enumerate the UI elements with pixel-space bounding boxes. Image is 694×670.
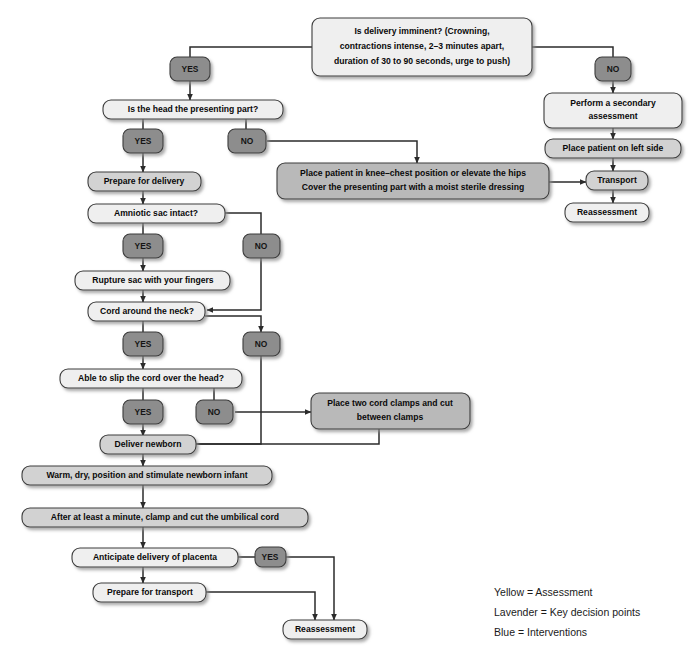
node-secondary-assessment[interactable]: Perform a secondary assessment xyxy=(544,93,682,128)
pill-yes-placenta[interactable]: YES xyxy=(255,547,286,567)
node-warm-dry[interactable]: Warm, dry, position and stimulate newbor… xyxy=(22,466,272,485)
pill-no-cord[interactable]: NO xyxy=(243,332,280,356)
node-knee-chest-line1: Place patient in knee–chest position or … xyxy=(300,168,526,178)
pill-no-head[interactable]: NO xyxy=(228,129,266,153)
flowchart-canvas: Is delivery imminent? (Crowning, contrac… xyxy=(0,0,694,670)
node-reassessment-bottom-label: Reassessment xyxy=(295,624,355,634)
pill-no-imminent-label: NO xyxy=(607,64,620,74)
pill-yes-cord[interactable]: YES xyxy=(123,332,163,356)
node-head-presenting[interactable]: Is the head the presenting part? xyxy=(103,100,283,119)
pill-yes-placenta-label: YES xyxy=(262,552,279,562)
pill-yes-imminent[interactable]: YES xyxy=(170,57,210,81)
node-anticipate-placenta-label: Anticipate delivery of placenta xyxy=(93,552,217,562)
node-reassessment-right[interactable]: Reassessment xyxy=(565,203,649,222)
node-cord-clamps-line1: Place two cord clamps and cut xyxy=(327,398,453,408)
pill-no-imminent[interactable]: NO xyxy=(595,57,631,81)
node-cord-clamps[interactable]: Place two cord clamps and cut between cl… xyxy=(311,393,470,429)
node-secondary-assessment-line2: assessment xyxy=(588,111,637,121)
node-prepare-transport-label: Prepare for transport xyxy=(107,587,193,597)
pill-yes-slip-label: YES xyxy=(135,407,152,417)
node-warm-dry-label: Warm, dry, position and stimulate newbor… xyxy=(46,470,247,480)
node-anticipate-placenta[interactable]: Anticipate delivery of placenta xyxy=(72,548,238,567)
node-knee-chest[interactable]: Place patient in knee–chest position or … xyxy=(277,163,549,199)
node-prepare-delivery[interactable]: Prepare for delivery xyxy=(88,172,201,191)
pill-no-cord-label: NO xyxy=(255,339,268,349)
node-rupture-sac-label: Rupture sac with your fingers xyxy=(92,275,214,285)
node-transport[interactable]: Transport xyxy=(586,171,648,190)
node-prepare-delivery-label: Prepare for delivery xyxy=(104,176,185,186)
node-rupture-sac[interactable]: Rupture sac with your fingers xyxy=(75,271,230,290)
pill-yes-head-label: YES xyxy=(135,136,152,146)
pill-yes-head[interactable]: YES xyxy=(123,129,163,153)
pill-no-sac-label: NO xyxy=(255,241,268,251)
pill-yes-cord-label: YES xyxy=(135,339,152,349)
pill-no-sac[interactable]: NO xyxy=(243,234,280,258)
pill-yes-sac[interactable]: YES xyxy=(123,234,163,258)
node-delivery-imminent-line2: contractions intense, 2–3 minutes apart, xyxy=(340,41,504,51)
node-amniotic-sac[interactable]: Amniotic sac intact? xyxy=(88,204,225,223)
node-slip-cord[interactable]: Able to slip the cord over the head? xyxy=(60,369,242,388)
node-reassessment-right-label: Reassessment xyxy=(577,207,637,217)
node-knee-chest-line2: Cover the presenting part with a moist s… xyxy=(302,182,525,192)
pill-no-slip[interactable]: NO xyxy=(196,400,233,424)
node-place-left-side[interactable]: Place patient on left side xyxy=(545,139,681,158)
node-deliver-newborn[interactable]: Deliver newborn xyxy=(100,435,196,454)
pill-yes-imminent-label: YES xyxy=(182,64,199,74)
node-transport-label: Transport xyxy=(597,175,637,185)
legend-item-1: Lavender = Key decision points xyxy=(494,606,640,618)
legend-item-0: Yellow = Assessment xyxy=(494,586,593,598)
node-head-presenting-label: Is the head the presenting part? xyxy=(128,104,258,114)
pill-no-slip-label: NO xyxy=(208,407,221,417)
legend-item-2: Blue = Interventions xyxy=(494,626,587,638)
node-cord-neck[interactable]: Cord around the neck? xyxy=(88,302,205,321)
pill-yes-sac-label: YES xyxy=(135,241,152,251)
node-reassessment-bottom[interactable]: Reassessment xyxy=(283,620,367,639)
node-after-minute[interactable]: After at least a minute, clamp and cut t… xyxy=(22,508,308,527)
node-cord-neck-label: Cord around the neck? xyxy=(100,306,194,316)
pill-no-head-label: NO xyxy=(241,136,254,146)
node-cord-clamps-line2: between clamps xyxy=(357,412,424,422)
pill-yes-slip[interactable]: YES xyxy=(123,400,163,424)
node-delivery-imminent-line1: Is delivery imminent? (Crowning, xyxy=(354,26,489,36)
node-slip-cord-label: Able to slip the cord over the head? xyxy=(78,373,224,383)
node-secondary-assessment-line1: Perform a secondary xyxy=(570,98,656,108)
node-delivery-imminent[interactable]: Is delivery imminent? (Crowning, contrac… xyxy=(312,18,532,76)
node-delivery-imminent-line3: duration of 30 to 90 seconds, urge to pu… xyxy=(334,56,510,66)
node-amniotic-sac-label: Amniotic sac intact? xyxy=(114,208,198,218)
node-prepare-transport[interactable]: Prepare for transport xyxy=(93,583,206,602)
node-place-left-side-label: Place patient on left side xyxy=(563,143,664,153)
node-deliver-newborn-label: Deliver newborn xyxy=(115,439,182,449)
node-after-minute-label: After at least a minute, clamp and cut t… xyxy=(51,512,279,522)
